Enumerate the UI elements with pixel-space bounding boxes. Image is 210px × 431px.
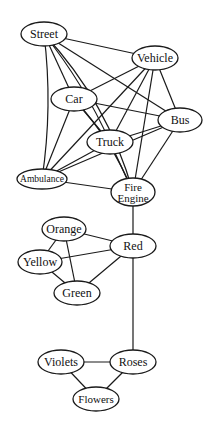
node-orange: Orange: [42, 217, 86, 241]
node-label: Ambulance: [20, 174, 64, 184]
node-label: Violets: [44, 355, 78, 369]
node-vehicle: Vehicle: [132, 46, 178, 70]
node-ambulance: Ambulance: [17, 169, 67, 189]
node-roses: Roses: [110, 350, 156, 374]
node-label: Truck: [96, 135, 124, 149]
node-label: Roses: [119, 355, 148, 369]
edge-street-ambulance: [42, 34, 48, 179]
node-label: Bus: [171, 113, 190, 127]
node-yellow: Yellow: [18, 250, 62, 274]
node-car: Car: [51, 87, 97, 111]
node-label: Car: [65, 92, 82, 106]
node-flowers: Flowers: [73, 387, 119, 411]
node-label: Vehicle: [137, 51, 173, 65]
node-green: Green: [54, 281, 100, 305]
node-street: Street: [21, 22, 67, 46]
node-bus: Bus: [158, 108, 202, 132]
node-label: Orange: [46, 222, 81, 236]
node-truck: Truck: [87, 130, 133, 154]
node-label: Yellow: [23, 255, 57, 269]
node-violets: Violets: [38, 350, 84, 374]
node-label: Green: [62, 286, 91, 300]
node-label: Red: [123, 239, 142, 253]
node-label-line2: Engine: [117, 192, 148, 204]
nodes-layer: StreetVehicleCarBusTruckAmbulanceFireEng…: [17, 22, 202, 411]
node-red: Red: [110, 234, 156, 258]
node-label: Street: [30, 27, 59, 41]
semantic-graph-diagram: StreetVehicleCarBusTruckAmbulanceFireEng…: [0, 0, 210, 431]
node-label: Flowers: [78, 393, 113, 405]
node-fire: FireEngine: [111, 178, 155, 206]
edge-street-fire: [44, 34, 133, 192]
